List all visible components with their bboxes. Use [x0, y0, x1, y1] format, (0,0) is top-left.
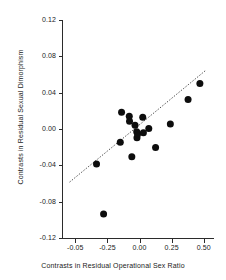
plot-canvas — [0, 0, 226, 280]
data-point — [185, 96, 192, 103]
data-point — [100, 210, 107, 217]
data-point — [196, 80, 203, 87]
data-point — [145, 125, 152, 132]
data-point — [132, 122, 139, 129]
data-point — [117, 139, 124, 146]
scatter-plot-figure: Contrasts in Residual Sexual Dimorphism … — [0, 0, 226, 280]
data-point — [139, 114, 146, 121]
data-point — [118, 109, 125, 116]
data-point — [152, 144, 159, 151]
data-point — [128, 153, 135, 160]
x-axis-ticks — [76, 239, 204, 243]
y-axis-ticks — [59, 21, 63, 239]
data-point — [134, 130, 141, 137]
data-point — [167, 121, 174, 128]
data-point — [93, 160, 100, 167]
